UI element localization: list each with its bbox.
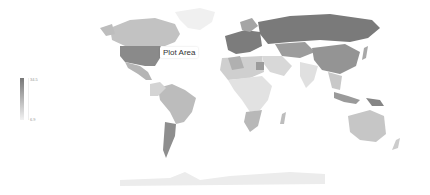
region-china[interactable] bbox=[312, 44, 360, 74]
region-australia[interactable] bbox=[348, 110, 386, 142]
region-south-africa[interactable] bbox=[244, 110, 262, 132]
region-madagascar[interactable] bbox=[280, 112, 286, 124]
region-middle-east[interactable] bbox=[262, 56, 292, 76]
region-papua-new-guinea[interactable] bbox=[366, 98, 384, 106]
region-japan[interactable] bbox=[362, 46, 368, 60]
region-new-zealand[interactable] bbox=[392, 138, 400, 150]
region-europe[interactable] bbox=[225, 30, 262, 54]
region-egypt[interactable] bbox=[256, 62, 264, 70]
region-central-asia[interactable] bbox=[275, 42, 315, 58]
region-argentina[interactable] bbox=[163, 122, 176, 158]
region-scandinavia[interactable] bbox=[240, 18, 258, 32]
region-antarctica[interactable] bbox=[120, 172, 325, 186]
region-southeast-asia[interactable] bbox=[328, 72, 342, 90]
legend-min-label: 6.9 bbox=[30, 117, 36, 122]
legend-axis-line bbox=[28, 78, 29, 120]
region-alaska[interactable] bbox=[100, 24, 115, 36]
region-indonesia[interactable] bbox=[334, 92, 360, 104]
region-russia[interactable] bbox=[258, 14, 380, 44]
region-canada[interactable] bbox=[110, 18, 180, 46]
region-india[interactable] bbox=[300, 62, 318, 88]
region-greenland[interactable] bbox=[175, 8, 215, 30]
region-sub-saharan-africa[interactable] bbox=[228, 76, 272, 112]
plot-area-tooltip: Plot Area bbox=[160, 47, 198, 58]
map-svg bbox=[0, 0, 430, 195]
color-scale-legend: 34.5 6.9 bbox=[20, 78, 60, 126]
color-gradient-bar bbox=[20, 78, 24, 120]
legend-max-label: 34.5 bbox=[30, 77, 38, 82]
world-choropleth-map[interactable]: Plot Area bbox=[0, 0, 430, 195]
